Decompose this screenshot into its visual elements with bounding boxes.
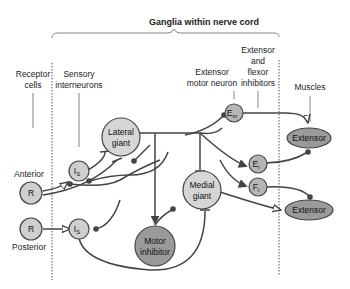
ganglia-bracket — [52, 29, 279, 38]
node-motor-inhibitor[interactable]: Motor inhibitor — [135, 226, 175, 266]
svg-text:Muscles: Muscles — [294, 82, 325, 92]
svg-text:cells: cells — [24, 80, 41, 90]
node-interneuron-top[interactable]: IS — [69, 161, 89, 181]
node-receptor-posterior[interactable]: R — [20, 218, 42, 240]
label-receptor-cells: Receptor cells — [16, 69, 51, 128]
label-inhibitors: Extensor and flexor inhibitors — [241, 45, 275, 108]
node-receptor-anterior[interactable]: R — [20, 182, 42, 204]
svg-text:Sensory: Sensory — [63, 69, 95, 79]
neural-circuit-diagram: Ganglia within nerve cord Receptor cells… — [0, 0, 350, 289]
svg-text:Medial: Medial — [189, 180, 214, 190]
label-anterior: Anterior — [14, 169, 44, 179]
svg-text:inhibitors: inhibitors — [241, 78, 275, 88]
svg-text:interneurons: interneurons — [55, 80, 102, 90]
label-extensor-motor-neuron: Extensor motor neuron — [187, 67, 238, 99]
svg-text:Extensor: Extensor — [241, 45, 275, 55]
svg-text:Motor: Motor — [144, 236, 166, 246]
svg-text:Extensor: Extensor — [292, 205, 326, 215]
svg-text:giant: giant — [112, 138, 131, 148]
node-interneuron-bottom[interactable]: IS — [69, 219, 89, 239]
connections — [43, 112, 313, 270]
svg-text:inhibitor: inhibitor — [140, 247, 170, 257]
svg-text:R: R — [28, 224, 34, 234]
node-lateral-giant[interactable]: Lateral giant — [102, 118, 140, 156]
muscle-extensor-bottom[interactable]: Extensor — [285, 200, 333, 220]
svg-text:Receptor: Receptor — [16, 69, 51, 79]
label-posterior: Posterior — [12, 242, 46, 252]
node-extensor-inhibitor[interactable]: Ei — [249, 155, 267, 173]
svg-text:giant: giant — [193, 191, 212, 201]
label-sensory-interneurons: Sensory interneurons — [55, 69, 102, 147]
svg-text:flexor: flexor — [248, 67, 269, 77]
svg-text:R: R — [28, 188, 34, 198]
svg-text:Extensor: Extensor — [195, 67, 229, 77]
node-medial-giant[interactable]: Medial giant — [183, 171, 221, 209]
node-flexor-inhibitor[interactable]: Fi — [249, 178, 267, 196]
svg-text:Extensor: Extensor — [292, 133, 326, 143]
svg-text:Lateral: Lateral — [108, 127, 134, 137]
node-extensor-motor[interactable]: Em — [225, 104, 243, 122]
svg-text:motor neuron: motor neuron — [187, 78, 238, 88]
svg-text:and: and — [251, 56, 265, 66]
diagram-title: Ganglia within nerve cord — [149, 17, 259, 27]
muscle-extensor-top[interactable]: Extensor — [287, 128, 331, 148]
label-muscles: Muscles — [294, 82, 325, 122]
